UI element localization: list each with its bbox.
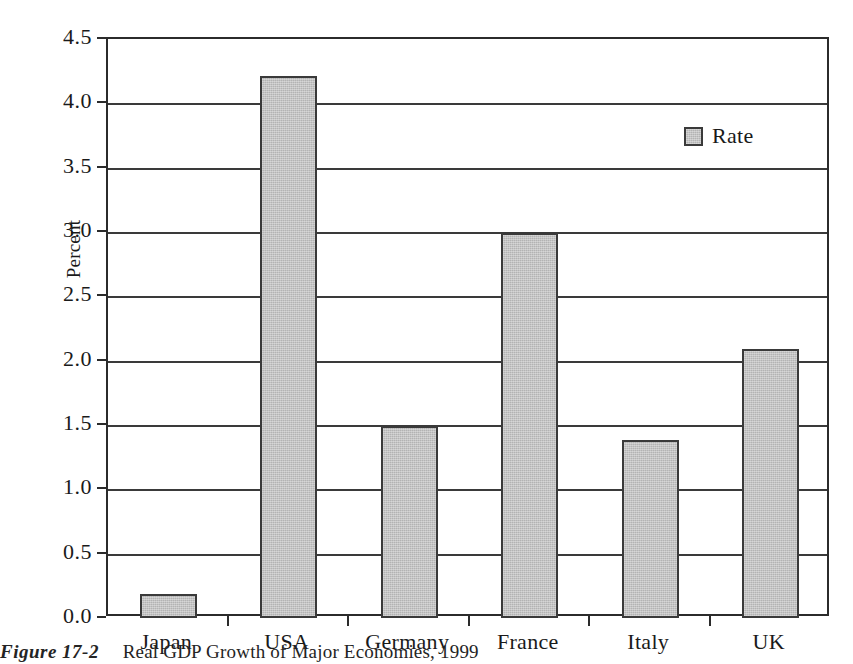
bar-italy	[622, 440, 679, 618]
y-tick-mark	[97, 294, 106, 296]
y-tick-mark	[97, 101, 106, 103]
x-tick-mark	[227, 616, 229, 626]
y-tick-mark	[97, 37, 106, 39]
y-tick-label: 1.5	[30, 412, 92, 434]
bar-japan	[140, 594, 197, 618]
x-tick-mark	[588, 616, 590, 626]
figure-root: Percent 0.00.51.01.52.02.53.03.54.04.5 J…	[0, 0, 853, 664]
y-tick-mark	[97, 166, 106, 168]
bar-germany	[381, 426, 438, 618]
figure-number: Figure 17-2	[0, 641, 99, 662]
y-tick-mark	[97, 616, 106, 618]
gridline	[108, 168, 827, 170]
x-tick-mark	[347, 616, 349, 626]
y-tick-mark	[97, 230, 106, 232]
gridline	[108, 103, 827, 105]
bar-uk	[742, 349, 799, 618]
legend-swatch-rate	[684, 127, 703, 146]
legend-label-rate: Rate	[712, 123, 754, 149]
gridline	[108, 489, 827, 491]
gridline	[108, 554, 827, 556]
y-tick-label: 4.5	[30, 26, 92, 48]
y-tick-label: 3.0	[30, 219, 92, 241]
y-tick-label: 2.0	[30, 348, 92, 370]
y-tick-mark	[97, 487, 106, 489]
y-tick-label: 2.5	[30, 283, 92, 305]
y-tick-label: 0.5	[30, 541, 92, 563]
y-tick-mark	[97, 423, 106, 425]
y-tick-mark	[97, 359, 106, 361]
gridline	[108, 361, 827, 363]
gridline	[108, 232, 827, 234]
bar-france	[501, 233, 558, 618]
figure-caption: Figure 17-2 Real GDP Growth of Major Eco…	[0, 641, 853, 663]
y-tick-mark	[97, 552, 106, 554]
legend: Rate	[684, 123, 754, 149]
x-tick-mark	[709, 616, 711, 626]
y-tick-label: 4.0	[30, 90, 92, 112]
gridline	[108, 296, 827, 298]
gridline	[108, 425, 827, 427]
y-tick-label: 3.5	[30, 155, 92, 177]
y-tick-label: 1.0	[30, 476, 92, 498]
x-tick-mark	[468, 616, 470, 626]
figure-caption-text: Real GDP Growth of Major Economies, 1999	[123, 641, 479, 662]
y-tick-label: 0.0	[30, 605, 92, 627]
bar-usa	[260, 76, 317, 618]
